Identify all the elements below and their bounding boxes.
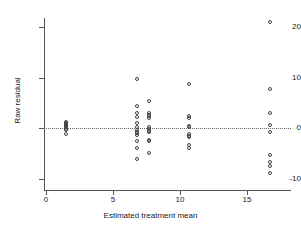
data-point (268, 164, 272, 168)
y-tick (39, 78, 44, 79)
scatter-plot: 20100-10 051015 Raw residual Estimated t… (0, 0, 301, 230)
data-point (268, 160, 272, 164)
y-tick-label: 20 (265, 23, 301, 31)
data-point (147, 99, 151, 103)
x-tick-label: 10 (165, 196, 195, 204)
data-point (268, 123, 272, 127)
data-point (135, 146, 139, 150)
data-point (135, 121, 139, 125)
x-tick-label: 5 (98, 196, 128, 204)
x-axis-line (44, 190, 291, 191)
data-point (147, 130, 151, 134)
data-point (135, 77, 139, 81)
zero-residual-reference-line (44, 128, 291, 129)
y-axis-line (44, 18, 45, 191)
data-point (187, 82, 191, 86)
data-point (187, 146, 191, 150)
y-tick (39, 179, 44, 180)
data-point (268, 111, 272, 115)
data-point (64, 132, 68, 136)
data-point (135, 104, 139, 108)
y-axis-title: Raw residual (13, 46, 22, 156)
y-tick (39, 27, 44, 28)
x-tick-label: 15 (232, 196, 262, 204)
y-tick-label: -10 (265, 175, 301, 183)
data-point (187, 135, 191, 139)
y-tick-label: 10 (265, 74, 301, 82)
data-point (187, 116, 191, 120)
data-point (268, 130, 272, 134)
y-tick (39, 128, 44, 129)
data-point (64, 128, 68, 132)
data-point (268, 153, 272, 157)
x-tick-label: 0 (31, 196, 61, 204)
data-point (268, 20, 272, 24)
data-point (135, 115, 139, 119)
data-point (135, 139, 139, 143)
data-point (147, 139, 151, 143)
data-point (147, 151, 151, 155)
data-point (268, 87, 272, 91)
data-point (147, 116, 151, 120)
data-point (135, 133, 139, 137)
data-point (135, 157, 139, 161)
x-axis-title: Estimated treatment mean (0, 211, 301, 220)
